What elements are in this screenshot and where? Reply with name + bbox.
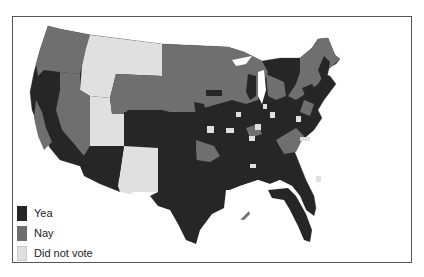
region-yea-co: [124, 112, 168, 146]
legend-label-nay: Nay: [34, 227, 54, 239]
legend-item-yea: Yea: [17, 203, 93, 223]
legend-swatch-did-not-vote: [17, 246, 27, 261]
legend-item-did-not-vote: Did not vote: [17, 243, 93, 263]
legend-label-yea: Yea: [34, 207, 53, 219]
legend-swatch-yea: [17, 206, 27, 221]
region-dnv-nm: [118, 146, 158, 194]
legend-item-nay: Nay: [17, 223, 93, 243]
map-legend: Yea Nay Did not vote: [17, 203, 93, 263]
legend-label-did-not-vote: Did not vote: [34, 247, 93, 259]
region-yea-mn: [206, 90, 222, 96]
legend-swatch-nay: [17, 226, 27, 241]
region-yea-az: [80, 146, 124, 192]
